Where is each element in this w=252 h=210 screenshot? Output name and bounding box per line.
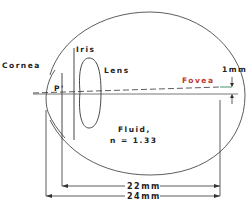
eye-diagram: Cornea Iris Lens P' Fovea 1mm Fluid, n =… — [0, 0, 252, 210]
dim-outer-arrow-left — [46, 194, 52, 198]
label-refractive-index: n = 1.33 — [110, 136, 157, 145]
eyeball-outline — [50, 12, 245, 175]
dim-inner-arrow-right — [214, 184, 220, 188]
label-fovea: Fovea — [182, 76, 215, 85]
label-fovea-offset: 1mm — [222, 65, 247, 74]
lens-shape — [79, 58, 101, 128]
label-dim-inner: 22mm — [127, 182, 161, 191]
offset-arrowhead-bottom — [230, 94, 234, 98]
label-pupil-point: P' — [54, 84, 65, 93]
label-dim-outer: 24mm — [127, 192, 161, 201]
label-fluid: Fluid, — [118, 125, 151, 134]
label-lens: Lens — [104, 66, 130, 75]
label-iris: Iris — [76, 45, 96, 54]
dim-inner-arrow-left — [62, 184, 68, 188]
label-cornea: Cornea — [2, 61, 41, 70]
dim-outer-arrow-right — [214, 194, 220, 198]
offset-arrowhead-top — [230, 83, 234, 87]
